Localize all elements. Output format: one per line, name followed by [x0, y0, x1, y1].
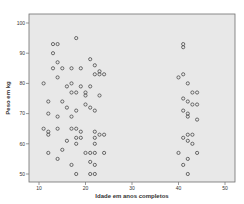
x-tick-label: 20 — [83, 185, 89, 191]
y-tick-label: 100 — [17, 20, 26, 26]
y-tick-label: 80 — [19, 80, 25, 86]
y-axis: 5060708090100 — [17, 20, 29, 177]
y-tick-label: 60 — [19, 141, 25, 147]
x-tick-label: 10 — [36, 185, 42, 191]
y-tick-label: 50 — [19, 171, 25, 177]
x-tick-label: 40 — [176, 185, 182, 191]
x-axis-title: Idade em anos completos — [95, 193, 169, 199]
y-tick-label: 70 — [19, 110, 25, 116]
x-axis: 1020304050 — [36, 182, 228, 191]
x-tick-label: 30 — [129, 185, 135, 191]
plot-area — [29, 14, 235, 182]
scatter-chart: 5060708090100 1020304050 Idade em anos c… — [0, 0, 244, 204]
y-axis-title: Peso em kg — [5, 81, 11, 115]
x-tick-label: 50 — [222, 185, 228, 191]
y-tick-label: 90 — [19, 50, 25, 56]
